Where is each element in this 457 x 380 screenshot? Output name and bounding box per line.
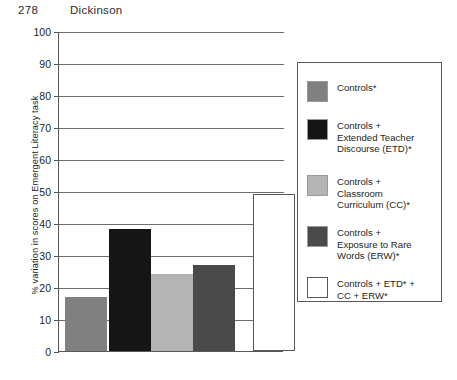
legend-item: Controls + ETD* + CC + ERW* [307,277,415,301]
y-axis-tick-label: 80 [39,90,51,102]
legend-item: Controls* [307,81,376,102]
legend-swatch-controls [307,81,328,102]
bar-3 [151,274,193,351]
y-axis-tick-label: 20 [39,282,51,294]
legend-item: Controls + Classroom Curriculum (CC)* [307,175,410,211]
legend-swatch-cc [307,175,328,196]
y-axis-tick-label: 30 [39,250,51,262]
tick-mark [54,352,59,353]
bar-1 [65,297,107,351]
legend-item-label: Controls + ETD* + CC + ERW* [337,277,415,301]
plot-area: 1009080706050403020100 [58,32,283,352]
chart-legend: Controls*Controls + Extended Teacher Dis… [297,62,442,302]
y-axis-tick-label: 40 [39,218,51,230]
legend-item-label: Controls + Classroom Curriculum (CC)* [337,175,410,211]
y-axis-tick-label: 100 [33,26,51,38]
y-axis-tick-label: 90 [39,58,51,70]
legend-swatch-erw [307,226,328,247]
y-axis-tick-label: 0 [45,346,51,358]
bar-series [59,31,284,351]
legend-swatch-etd [307,119,328,140]
legend-item: Controls + Extended Teacher Discourse (E… [307,119,414,155]
y-axis-tick-label: 50 [39,186,51,198]
bar-chart-figure: % variation in scores on Emergent Litera… [0,0,457,380]
y-axis-tick-label: 70 [39,122,51,134]
bar-2 [109,229,151,351]
bar-5 [253,194,295,351]
bar-4 [193,265,235,351]
y-axis-tick-label: 60 [39,154,51,166]
legend-item-label: Controls* [337,81,376,94]
y-axis-tick-label: 10 [39,314,51,326]
legend-item-label: Controls + Exposure to Rare Words (ERW)* [337,226,412,262]
legend-item: Controls + Exposure to Rare Words (ERW)* [307,226,412,262]
legend-swatch-combined [307,277,328,298]
legend-item-label: Controls + Extended Teacher Discourse (E… [337,119,414,155]
